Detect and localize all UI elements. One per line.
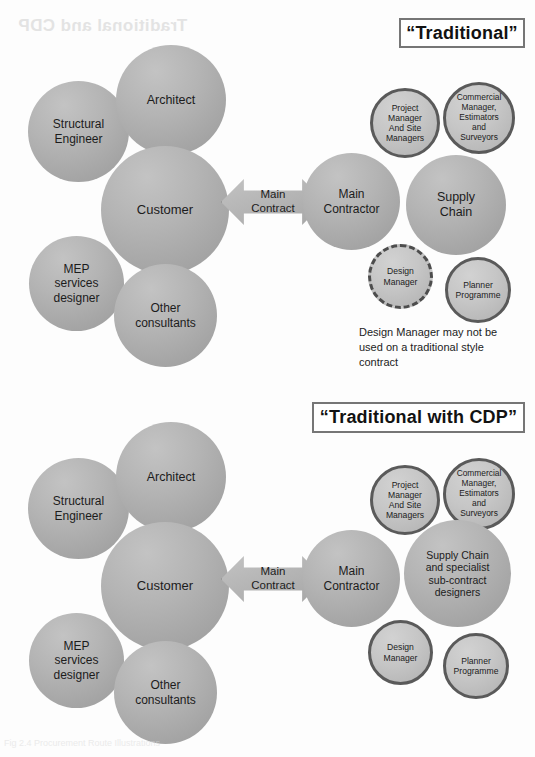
main-contract-arrow-label: Main Contract xyxy=(251,565,294,593)
node-customer[interactable]: Customer xyxy=(101,146,229,274)
node-label: Supply Chain xyxy=(432,190,480,220)
diagram-traditional: “Traditional” Structural Engineer Archit… xyxy=(0,0,535,380)
node-label: Architect xyxy=(142,93,201,108)
node-structural-engineer[interactable]: Structural Engineer xyxy=(28,458,129,559)
scanned-page: Traditional and CDP “Traditional” Struct… xyxy=(0,0,535,757)
node-planner-programme[interactable]: Planner Programme xyxy=(445,257,511,323)
node-design-manager[interactable]: Design Manager xyxy=(368,620,433,685)
node-label: Commercial Manager, Estimators and Surve… xyxy=(452,469,507,519)
node-customer[interactable]: Customer xyxy=(101,522,229,650)
node-supply-chain-and-specialist-sub-contract-designers[interactable]: Supply Chain and specialist sub-contract… xyxy=(404,520,511,627)
node-label: Planner Programme xyxy=(449,656,504,676)
node-label: MEP services designer xyxy=(48,639,104,681)
node-label: Project Manager And Site Managers xyxy=(381,103,429,144)
node-label: Structural Engineer xyxy=(48,494,109,522)
node-mep-services-designer[interactable]: MEP services designer xyxy=(29,236,124,331)
node-label: Structural Engineer xyxy=(48,117,109,145)
node-label: Customer xyxy=(132,202,198,217)
main-contract-arrow-label: Main Contract xyxy=(251,188,294,216)
node-commercial-manager-estimators-and-surveyors[interactable]: Commercial Manager, Estimators and Surve… xyxy=(443,82,515,154)
node-label: Planner Programme xyxy=(451,280,506,300)
node-other-consultants[interactable]: Other consultants xyxy=(114,264,217,367)
node-main-contractor[interactable]: Main Contractor xyxy=(303,153,400,250)
node-architect[interactable]: Architect xyxy=(116,45,226,155)
node-label: Other consultants xyxy=(130,301,201,329)
node-design-manager[interactable]: Design Manager xyxy=(368,244,433,309)
node-label: Supply Chain and specialist sub-contract… xyxy=(421,549,495,599)
node-planner-programme[interactable]: Planner Programme xyxy=(443,633,509,699)
node-label: Design Manager xyxy=(379,642,423,662)
node-main-contractor[interactable]: Main Contractor xyxy=(303,530,400,627)
node-label: Design Manager xyxy=(379,266,423,286)
node-label: Other consultants xyxy=(130,678,201,706)
node-other-consultants[interactable]: Other consultants xyxy=(114,641,217,744)
node-project-manager-and-site-managers[interactable]: Project Manager And Site Managers xyxy=(370,88,440,158)
node-label: Architect xyxy=(142,470,201,485)
node-architect[interactable]: Architect xyxy=(116,422,226,532)
node-label: Customer xyxy=(132,578,198,593)
node-project-manager-and-site-managers[interactable]: Project Manager And Site Managers xyxy=(370,465,440,535)
diagram-traditional-with-cdp: “Traditional with CDP” Structural Engine… xyxy=(0,380,535,757)
node-label: MEP services designer xyxy=(48,262,104,304)
node-label: Commercial Manager, Estimators and Surve… xyxy=(452,93,507,143)
node-label: Main Contractor xyxy=(318,187,384,215)
node-mep-services-designer[interactable]: MEP services designer xyxy=(29,613,124,708)
diagram-title-traditional: “Traditional” xyxy=(399,18,525,48)
design-manager-footnote: Design Manager may not be used on a trad… xyxy=(359,325,529,370)
node-structural-engineer[interactable]: Structural Engineer xyxy=(28,81,129,182)
node-supply-chain[interactable]: Supply Chain xyxy=(406,155,506,255)
node-label: Project Manager And Site Managers xyxy=(381,480,429,521)
diagram-title-traditional-with-cdp: “Traditional with CDP” xyxy=(312,402,525,433)
node-label: Main Contractor xyxy=(318,564,384,592)
